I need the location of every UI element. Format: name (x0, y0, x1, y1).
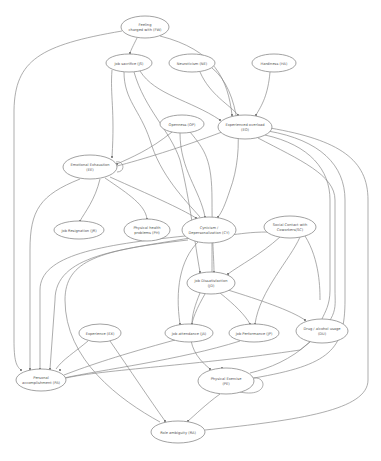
edge-jd-du (228, 290, 305, 320)
node-jr: Job Resignation (JR) (54, 221, 104, 239)
node-pa-label-2: accomplishment (PA) (22, 381, 61, 385)
node-ph: Physical health problems (PH) (124, 219, 170, 241)
node-cy-label-2: Depersonalization (CY) (188, 231, 230, 235)
node-ph-label-1: Physical health (133, 226, 160, 230)
node-ne: Neuroticism (NE) (169, 54, 215, 72)
node-sc-label-2: Coworkers(SC) (277, 228, 304, 232)
edge-ne-cy (212, 68, 238, 217)
edge-ne-eo (200, 72, 238, 115)
node-ph-label-2: problems (PH) (134, 231, 160, 235)
node-op: Openness (OP) (160, 115, 204, 133)
node-op-label: Openness (OP) (169, 123, 196, 127)
edge-op-ee (117, 132, 172, 164)
node-ne-label: Neuroticism (NE) (177, 62, 208, 66)
node-ja: Job attendance (JA) (165, 324, 213, 342)
edge-pe-ra (188, 394, 220, 421)
node-ha-label: Hardiness (HA) (261, 62, 289, 66)
edge-jd-jp (220, 293, 250, 324)
node-jp-label: Job Performance (JP) (235, 332, 273, 336)
node-pe-label-1: Physical Exercise (211, 377, 243, 381)
edge-ex-pa (56, 341, 88, 369)
node-pe-label-2: (PE) (222, 382, 230, 386)
node-ee: Emotional Exhaustion (EE) (63, 155, 117, 179)
node-sc-label-1: Social Contact with (273, 223, 308, 227)
node-ee-label-1: Emotional Exhaustion (70, 163, 109, 167)
edge-op-jd (190, 132, 214, 272)
edge-sc-ra (305, 236, 320, 300)
node-jd-label-1: Job Dissatisfaction (193, 279, 227, 283)
node-du-label-2: (DU) (318, 332, 327, 336)
node-ex: Experience (EX) (79, 324, 121, 342)
node-fw-label-2: charged with (FW) (129, 28, 163, 32)
node-pa: Personal accomplishment (PA) (16, 369, 66, 391)
edge-du-pe (250, 342, 310, 373)
node-sc: Social Contact with Coworkers(SC) (264, 216, 316, 238)
node-pe: Physical Exercise (PE) (198, 368, 254, 394)
structural-causal-diagram: Feeling charged with (FW) Job sacrifice … (0, 0, 381, 461)
edge-sc-jp (255, 237, 300, 324)
node-cy: Cynicism / Depersonalization (CY) (182, 217, 236, 243)
node-jp: Job Performance (JP) (229, 324, 279, 342)
edge-js-eo (140, 71, 220, 120)
node-js: Job sacrifice (JS) (106, 54, 152, 72)
edge-ee-jr (80, 179, 100, 221)
node-du: Drug / alcohol usage (DU) (296, 319, 348, 343)
node-ra-label: Role ambiguity (RA) (160, 431, 196, 435)
node-js-label: Job sacrifice (JS) (114, 62, 145, 66)
node-ha: Hardiness (HA) (252, 54, 296, 72)
edge-ex-ra (110, 341, 165, 421)
node-fw: Feeling charged with (FW) (121, 16, 169, 38)
edge-ha-eo (256, 72, 270, 115)
node-pa-label-1: Personal (33, 376, 48, 380)
node-jd-label-2: (JD) (208, 284, 215, 288)
edge-js-ee (112, 70, 113, 157)
node-du-label-1: Drug / alcohol usage (303, 327, 341, 331)
node-ee-label-2: (EE) (86, 168, 94, 172)
node-fw-label-1: Feeling (139, 23, 152, 27)
edge-cy-pa (40, 236, 185, 369)
edge-fw-js (130, 38, 137, 53)
node-eo: Experienced overload (EO) (218, 115, 272, 139)
node-jr-label: Job Resignation (JR) (60, 229, 97, 233)
node-ra: Role ambiguity (RA) (151, 421, 205, 443)
node-ja-label: Job attendance (JA) (171, 332, 207, 336)
edge-cy-pa-2 (50, 238, 190, 369)
edge-sc-jd (228, 237, 280, 274)
edge-ja-pa (64, 340, 175, 375)
node-ex-label: Experience (EX) (86, 332, 115, 336)
edge-eo-ee (117, 132, 222, 166)
node-jd: Job Dissatisfaction (JD) (187, 272, 235, 294)
edge-fw-eo (160, 36, 232, 115)
node-eo-label-1: Experienced overload (225, 123, 264, 127)
node-eo-label-2: (EO) (241, 128, 250, 132)
node-cy-label-1: Cynicism / (200, 226, 219, 230)
